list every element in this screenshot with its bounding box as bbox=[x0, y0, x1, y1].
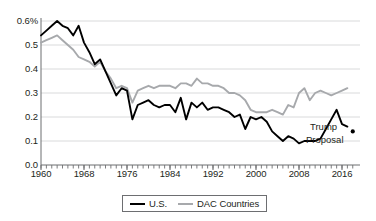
legend-label-us: U.S. bbox=[149, 199, 167, 209]
x-tick-label-2016: 2016 bbox=[332, 168, 353, 179]
annotation-trump-proposal-line2: Proposal bbox=[306, 134, 344, 147]
legend-item-dac-countries: DAC Countries bbox=[178, 199, 259, 209]
trump-proposal-marker bbox=[351, 129, 355, 133]
chart-container: 0.6% 0.5 0.4 0.3 0.2 0.1 0.0 1960 1968 1… bbox=[0, 0, 376, 221]
legend-item-us: U.S. bbox=[130, 199, 167, 209]
plot-area bbox=[0, 0, 376, 221]
x-tick-label-2000: 2000 bbox=[246, 168, 267, 179]
legend-swatch-dac-icon bbox=[178, 203, 193, 205]
x-tick-label-2008: 2008 bbox=[289, 168, 310, 179]
x-tick-label-1992: 1992 bbox=[203, 168, 224, 179]
x-tick-label-1960: 1960 bbox=[31, 168, 52, 179]
legend-swatch-us-icon bbox=[130, 203, 145, 205]
legend-label-dac-countries: DAC Countries bbox=[197, 199, 259, 209]
x-tick-label-1976: 1976 bbox=[117, 168, 138, 179]
chart-legend: U.S. DAC Countries bbox=[122, 195, 267, 212]
x-tick-label-1968: 1968 bbox=[74, 168, 95, 179]
x-tick-label-1984: 1984 bbox=[160, 168, 181, 179]
annotation-trump-proposal-line1: Trump bbox=[310, 121, 337, 134]
x-axis-tick-labels: 1960 1968 1976 1984 1992 2000 2008 2016 bbox=[0, 168, 376, 184]
